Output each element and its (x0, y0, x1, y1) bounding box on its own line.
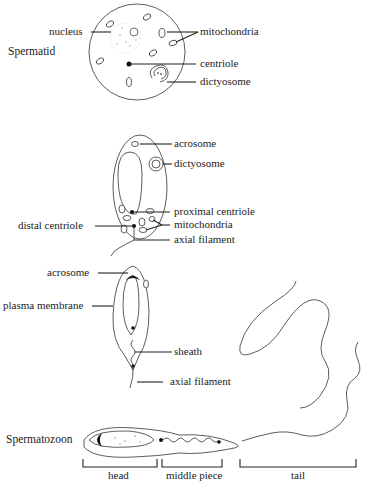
label-plasma-membrane: plasma membrane (3, 299, 83, 311)
stage3-acrosome (126, 276, 140, 280)
label-sheath: sheath (174, 345, 203, 357)
label-head: head (108, 469, 129, 481)
bracket-head: head (83, 459, 157, 481)
stage3-tail-wave (240, 281, 329, 408)
label-distal-centriole: distal centriole (18, 219, 83, 231)
label-mitochondria-1: mitochondria (200, 25, 259, 37)
label-dictyosome-1: dictyosome (200, 75, 251, 87)
label-axial-filament-1: axial filament (174, 233, 235, 245)
spermatid-stage: Spermatid nucleus (8, 4, 259, 100)
stage2-acrosome (132, 142, 139, 147)
spermatid-cell-outline (89, 4, 185, 100)
stage-3: acrosome plasma membrane sheath axial fi… (3, 266, 231, 388)
spermatid-dictyosome (150, 65, 168, 82)
label-dictyosome-2: dictyosome (174, 157, 225, 169)
spermatid-title: Spermatid (8, 45, 56, 58)
label-acrosome-1: acrosome (174, 137, 216, 149)
label-tail: tail (291, 469, 305, 481)
stage-2: acrosome dictyosome proximal centriole d… (18, 135, 255, 256)
bracket-tail: tail (240, 459, 356, 481)
label-proximal-centriole: proximal centriole (174, 205, 255, 217)
label-centriole: centriole (200, 57, 239, 69)
spermatozoon-tail (242, 342, 360, 441)
label-axial-filament-2: axial filament (170, 375, 231, 387)
label-mitochondria-2: mitochondria (174, 218, 233, 230)
label-nucleus: nucleus (49, 25, 83, 37)
spermatozoon-title: Spermatozoon (6, 433, 73, 446)
spermatid-nucleus (110, 23, 140, 53)
stage3-sheath (131, 340, 135, 364)
label-acrosome-2: acrosome (47, 266, 89, 278)
stage2-dictyosome (149, 157, 163, 171)
label-middle-piece: middle piece (166, 469, 223, 481)
spermatozoon-middle-piece (163, 438, 219, 442)
stage3-nucleus (123, 275, 139, 335)
spermatozoon-stage: Spermatozoon head middle piece tail (6, 342, 360, 481)
bracket-middle-piece: middle piece (162, 459, 223, 481)
spermatogenesis-diagram: Spermatid nucleus (0, 0, 381, 493)
